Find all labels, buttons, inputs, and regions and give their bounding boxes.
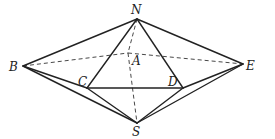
edge-CS — [87, 88, 137, 123]
vertex-label-D: D — [167, 75, 178, 89]
edge-AE — [128, 53, 243, 64]
edge-ES — [137, 64, 243, 123]
vertex-label-C: C — [78, 75, 87, 89]
edge-NE — [137, 19, 243, 64]
geometry-diagram: NBECDSA — [0, 0, 275, 139]
vertex-label-E: E — [245, 59, 255, 73]
vertex-label-S: S — [132, 125, 140, 139]
edge-DE — [183, 64, 243, 88]
vertex-label-A: A — [131, 54, 141, 68]
edge-DS — [137, 88, 183, 123]
vertex-label-B: B — [8, 60, 18, 74]
hidden-edges — [23, 19, 243, 123]
vertex-label-N: N — [130, 3, 142, 17]
